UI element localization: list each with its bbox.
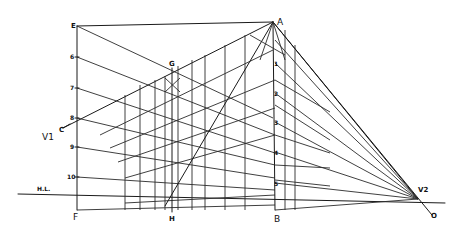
label-B: B	[274, 214, 280, 224]
label-E: E	[71, 22, 76, 30]
left-mark-10: 10	[67, 173, 75, 180]
stroke-r1	[275, 105, 330, 140]
label-A: A	[277, 17, 284, 27]
ray-1-V2	[275, 63, 418, 199]
left-mark-9: 9	[70, 143, 74, 150]
stroke-r4	[275, 180, 330, 186]
label-H: H	[169, 215, 175, 223]
label-G: G	[169, 60, 175, 68]
right-mark-1: 1	[274, 60, 278, 67]
right-mark-5: 5	[274, 180, 278, 187]
ray-5-V2	[275, 183, 418, 199]
perspective-diagram: E A F B G H C V1 V2 O H.L. 6 7 8 9 10 1 …	[0, 0, 453, 234]
depth-line-2	[110, 80, 275, 148]
label-F: F	[73, 212, 78, 222]
left-mark-7: 7	[70, 84, 74, 91]
left-mark-8: 8	[70, 114, 74, 121]
right-mark-4: 4	[274, 149, 278, 156]
stroke-r2	[275, 135, 330, 153]
left-mark-6: 6	[70, 53, 74, 60]
right-mark-2: 2	[274, 90, 278, 97]
depth-line-1	[100, 50, 273, 135]
stroke-r3	[275, 165, 330, 168]
label-V1: V1	[42, 132, 54, 142]
label-HL: H.L.	[37, 185, 50, 192]
label-V2: V2	[418, 186, 428, 194]
depth-line-4	[125, 135, 275, 178]
label-C: C	[59, 126, 64, 134]
stroke-r5	[275, 80, 330, 112]
ray-2-V2	[275, 93, 418, 199]
ray-3-V2	[275, 122, 418, 199]
line-EA	[77, 22, 273, 26]
label-O: O	[431, 212, 437, 220]
right-mark-3: 3	[274, 119, 278, 126]
